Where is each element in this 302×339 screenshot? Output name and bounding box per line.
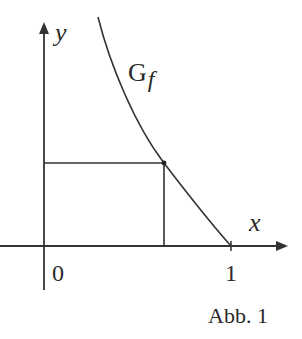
x-axis-arrow-icon — [276, 241, 288, 251]
y-axis-arrow-icon — [39, 22, 49, 34]
x-axis-label: x — [249, 210, 261, 236]
x-tick-label-1: 1 — [225, 261, 237, 285]
graph-label-main: G — [128, 58, 147, 87]
rectangle-corner-point — [162, 161, 167, 166]
graph-label: Gf — [128, 60, 154, 86]
graph-label-subscript: f — [148, 66, 155, 92]
function-graph-figure: y x Gf 0 1 Abb. 1 — [0, 0, 302, 339]
graph-svg — [0, 0, 302, 339]
y-axis-label: y — [55, 20, 67, 46]
x-tick-label-0: 0 — [52, 261, 64, 285]
figure-caption: Abb. 1 — [208, 305, 268, 327]
